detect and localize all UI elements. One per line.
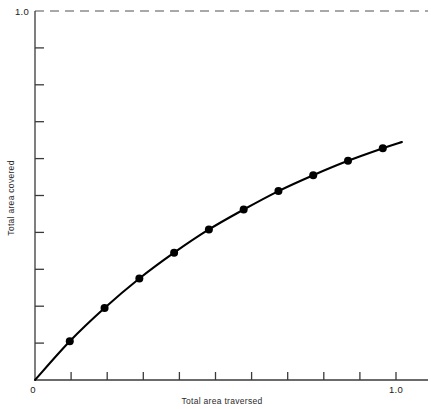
data-point	[309, 171, 317, 179]
data-point	[274, 187, 282, 195]
data-point	[240, 206, 248, 214]
y-axis-max-tick-label: 1.0	[15, 6, 29, 17]
x-axis-max-tick-label: 1.0	[389, 384, 403, 395]
x-axis-title: Total area traversed	[181, 396, 262, 406]
data-point	[344, 157, 352, 165]
data-point	[379, 144, 387, 152]
y-axis-title: Total area covered	[6, 160, 16, 235]
data-point	[205, 225, 213, 233]
data-point	[135, 275, 143, 283]
data-point	[101, 304, 109, 312]
data-point	[66, 337, 74, 345]
chart-figure: 1.0 0 1.0 Total area traversed Total are…	[0, 0, 431, 409]
data-point	[170, 249, 178, 257]
origin-tick-label: 0	[30, 384, 36, 395]
